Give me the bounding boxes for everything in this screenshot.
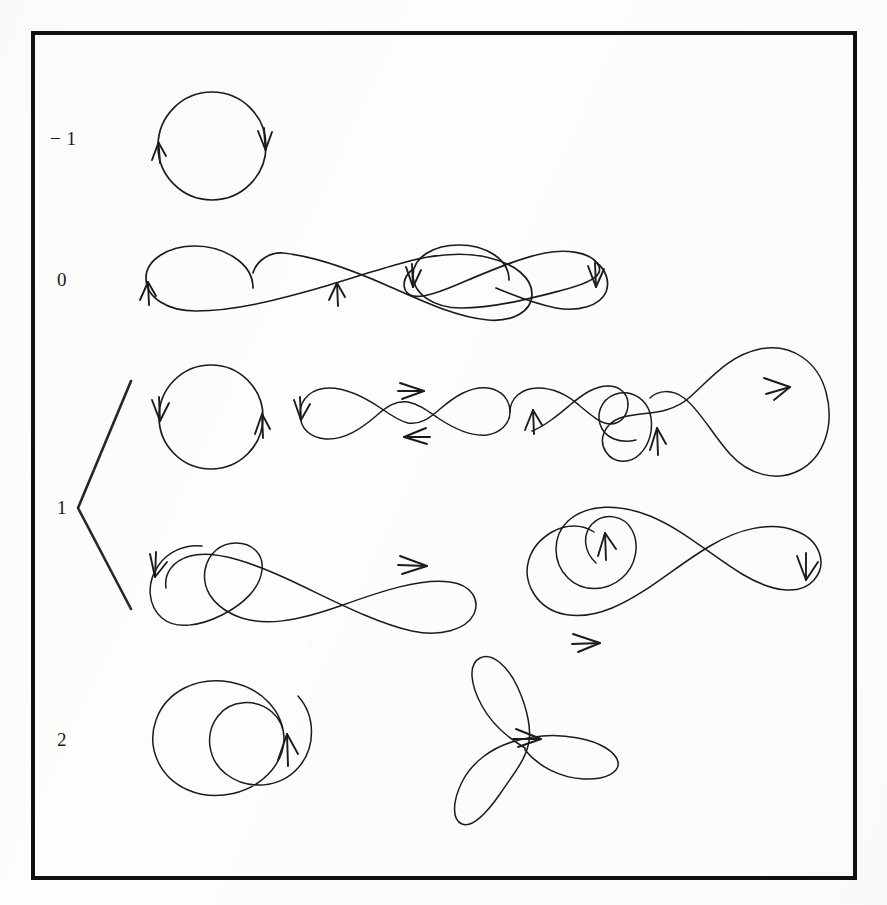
curve-three-petal-rose (455, 657, 619, 825)
curve-circle-cw (152, 92, 272, 200)
curve-double-small-loop (599, 348, 829, 476)
row-label-2: 2 (57, 729, 67, 751)
curve-triple-loop (294, 383, 628, 444)
curve-figure-eight-down (404, 245, 607, 309)
row-label-minus1: − 1 (50, 128, 76, 150)
curve-diagram: .ink { fill: none; stroke: #1b1b1b; stro… (0, 0, 887, 905)
curve-loop-in-eight-left (150, 543, 476, 633)
figure-page: .ink { fill: none; stroke: #1b1b1b; stro… (0, 0, 887, 905)
curve-figure-eight-up (140, 246, 532, 320)
curve-circle-ccw (152, 365, 270, 469)
curve-limacon (153, 681, 312, 796)
curve-loop-in-eight-right (527, 507, 821, 652)
row-label-0: 0 (57, 269, 67, 291)
row-label-1: 1 (57, 497, 67, 519)
row-1-brace (78, 381, 131, 609)
